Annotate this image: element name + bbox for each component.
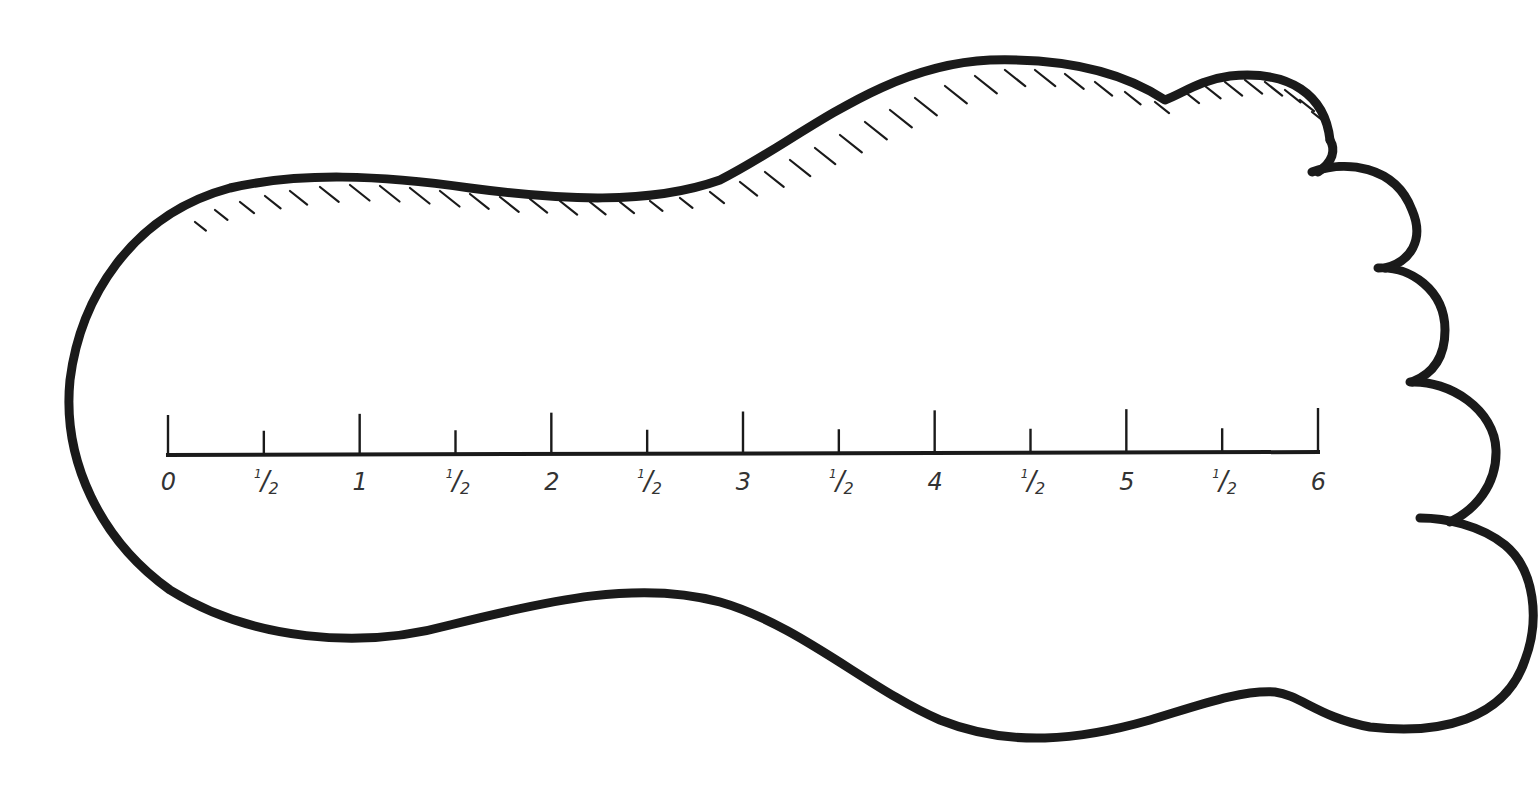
fraction-numerator: 1 (254, 467, 261, 481)
ruler-label-text: 6 (1311, 468, 1325, 496)
ruler-label-half: 1/2 (446, 466, 470, 498)
hatch-mark (1095, 82, 1112, 96)
hatch-mark (290, 191, 307, 205)
hatch-mark (215, 210, 227, 220)
fraction-denominator: 2 (1035, 479, 1044, 498)
ruler-label-text: 4 (928, 468, 942, 496)
hatch-mark (840, 135, 862, 152)
hatch-mark (975, 76, 997, 93)
ruler (166, 408, 1320, 455)
fraction-denominator: 2 (1227, 479, 1236, 498)
ruler-label-whole: 1 (353, 468, 367, 496)
ruler-label-half: 1/2 (829, 466, 853, 498)
hatch-mark (620, 202, 634, 213)
hatch-mark (1265, 82, 1282, 96)
hatch-mark (1225, 82, 1242, 96)
hatch-mark (890, 110, 912, 127)
ruler-label-text: 5 (1119, 468, 1133, 496)
fraction-denominator: 2 (268, 479, 277, 498)
hatch-mark (470, 194, 489, 209)
hatch-mark (650, 201, 662, 211)
ruler-label-whole: 2 (544, 468, 558, 496)
hatch-mark (320, 187, 339, 202)
ruler-label-whole: 4 (928, 468, 942, 496)
hatch-mark (765, 172, 784, 187)
hatch-mark (240, 202, 254, 213)
hatch-mark (1125, 92, 1141, 104)
hatch-mark (1035, 70, 1055, 86)
hatch-mark (1185, 92, 1199, 103)
fraction-numerator: 1 (1021, 467, 1028, 481)
ruler-label-half: 1/2 (254, 466, 278, 498)
hatch-mark (1065, 74, 1084, 89)
ruler-label-whole: 6 (1311, 468, 1325, 496)
ruler-label-half: 1/2 (1021, 466, 1045, 498)
hatch-mark (590, 202, 606, 214)
hatch-mark (865, 122, 887, 139)
toe-3-outline (1378, 268, 1445, 382)
fraction-denominator: 2 (460, 479, 469, 498)
ruler-label-whole: 0 (161, 468, 175, 496)
hatch-mark (790, 160, 810, 176)
hatch-mark (380, 186, 400, 202)
hatch-mark (740, 182, 757, 196)
ruler-label-text: 3 (736, 468, 750, 496)
hatch-mark (680, 198, 692, 208)
hatch-mark (945, 86, 967, 103)
hatch-mark (500, 197, 519, 212)
ruler-label-half: 1/2 (637, 466, 661, 498)
hatch-mark (265, 196, 281, 208)
hatch-mark (560, 201, 577, 215)
foot-outline-main (69, 60, 1533, 738)
fraction-numerator: 1 (446, 467, 453, 481)
hatch-mark (710, 192, 724, 203)
ruler-label-text: 2 (544, 468, 558, 496)
ruler-label-text: 1 (353, 468, 367, 496)
ruler-label-whole: 5 (1119, 468, 1133, 496)
hatch-mark (1005, 70, 1025, 86)
ruler-label-half: 1/2 (1212, 466, 1236, 498)
toe-4-outline (1410, 382, 1496, 522)
fraction-denominator: 2 (652, 479, 661, 498)
fraction-numerator: 1 (637, 467, 644, 481)
fraction-numerator: 1 (1212, 467, 1219, 481)
ruler-label-text: 0 (161, 468, 175, 496)
fraction-numerator: 1 (829, 467, 836, 481)
hatch-mark (195, 222, 206, 231)
foot-diagram (0, 0, 1539, 786)
toe-2-outline (1312, 166, 1417, 268)
hatch-mark (440, 191, 460, 207)
hatch-mark (815, 148, 835, 164)
ruler-label-whole: 3 (736, 468, 750, 496)
hatch-mark (410, 188, 430, 204)
fraction-denominator: 2 (843, 479, 852, 498)
hatch-mark (1205, 86, 1221, 98)
hatch-mark (915, 98, 937, 115)
hatch-mark (530, 199, 547, 213)
hatch-mark (350, 185, 370, 201)
hatch-mark (1245, 80, 1262, 94)
